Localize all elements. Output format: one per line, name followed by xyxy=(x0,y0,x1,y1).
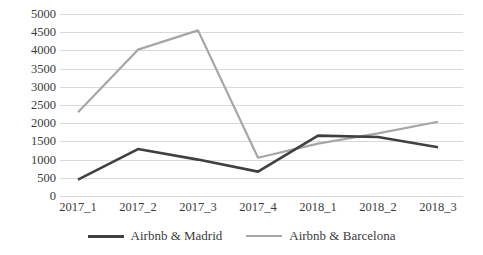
legend-line-swatch xyxy=(246,235,282,237)
line-chart: 0500100015002000250030003500400045005000… xyxy=(0,0,483,255)
x-axis-tick-label: 2017_3 xyxy=(179,200,217,214)
legend-item[interactable]: Airbnb & Barcelona xyxy=(246,229,395,243)
gridline xyxy=(60,196,463,197)
plot-area xyxy=(60,14,463,196)
y-axis-tick-label: 3000 xyxy=(4,81,56,93)
x-axis-tick-label: 2018_1 xyxy=(299,200,337,214)
y-axis-tick-label: 0 xyxy=(4,190,56,202)
x-axis-tick-label: 2018_2 xyxy=(359,200,397,214)
y-axis-tick-label: 2000 xyxy=(4,117,56,129)
y-axis: 0500100015002000250030003500400045005000 xyxy=(0,14,56,196)
chart-legend: Airbnb & MadridAirbnb & Barcelona xyxy=(0,226,483,246)
y-axis-tick-label: 2500 xyxy=(4,99,56,111)
x-axis-tick-label: 2017_2 xyxy=(119,200,157,214)
x-axis: 2017_12017_22017_32017_42018_12018_22018… xyxy=(60,200,463,220)
legend-line-swatch xyxy=(88,235,124,238)
legend-label: Airbnb & Madrid xyxy=(131,229,223,243)
y-axis-tick-label: 1500 xyxy=(4,135,56,147)
y-axis-tick-label: 4500 xyxy=(4,26,56,38)
legend-item[interactable]: Airbnb & Madrid xyxy=(88,229,223,243)
series-lines xyxy=(60,14,463,196)
legend-label: Airbnb & Barcelona xyxy=(289,229,395,243)
x-axis-tick-label: 2018_3 xyxy=(419,200,457,214)
y-axis-tick-label: 4000 xyxy=(4,44,56,56)
x-axis-tick-label: 2017_1 xyxy=(59,200,97,214)
y-axis-tick-label: 500 xyxy=(4,172,56,184)
y-axis-tick-label: 1000 xyxy=(4,154,56,166)
y-axis-tick-label: 3500 xyxy=(4,63,56,75)
y-axis-tick-label: 5000 xyxy=(4,8,56,20)
x-axis-tick-label: 2017_4 xyxy=(239,200,277,214)
